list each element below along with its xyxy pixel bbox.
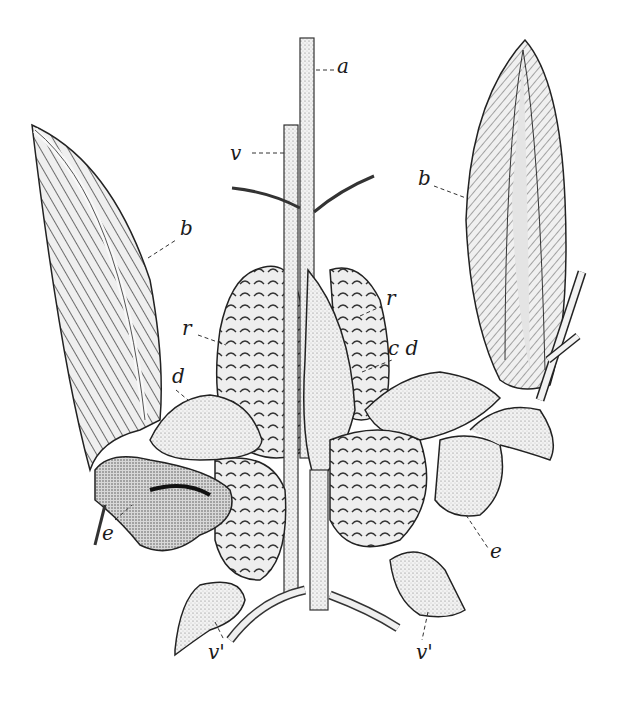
label-d-left: d	[172, 366, 185, 386]
label-v: v	[230, 143, 241, 163]
label-r-left: r	[182, 318, 192, 338]
right-bulb-v-prime	[390, 552, 465, 617]
label-e-right: e	[490, 541, 502, 561]
engraving-drawing	[0, 0, 619, 708]
anatomical-figure: a v b b r r c d d e e v' v'	[0, 0, 619, 708]
vessel-v	[284, 125, 298, 595]
lower-right-gland	[330, 430, 427, 547]
label-b-left: b	[180, 218, 193, 238]
label-b-right: b	[418, 168, 431, 188]
label-r-right: r	[386, 288, 396, 308]
label-v-prime-right: v'	[416, 642, 433, 662]
label-v-prime-left: v'	[208, 642, 225, 662]
right-gill	[466, 40, 566, 389]
left-coiled-duct-e	[95, 457, 232, 551]
label-a: a	[337, 56, 349, 76]
label-cd: c d	[388, 338, 418, 358]
left-gill	[32, 125, 161, 470]
label-e-left: e	[102, 523, 114, 543]
